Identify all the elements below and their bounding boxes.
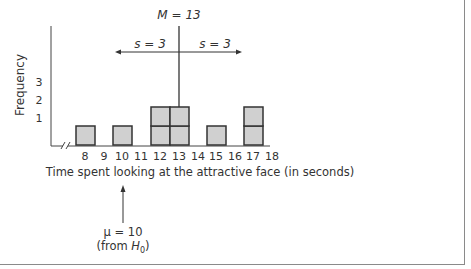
bar-17-unit-2 bbox=[244, 107, 263, 126]
sd-left-label: s = 3 bbox=[134, 37, 166, 51]
mu-source-prefix: (from bbox=[96, 239, 131, 253]
bar-10-unit-1 bbox=[113, 126, 132, 145]
bars bbox=[76, 107, 263, 145]
mu-arrow-head-icon bbox=[121, 185, 126, 192]
bar-17-unit-1 bbox=[244, 126, 263, 145]
x-axis-title: Time spent looking at the attractive fac… bbox=[45, 165, 354, 179]
mu-source-label: (from H0) bbox=[96, 239, 149, 255]
y-tick-2: 2 bbox=[36, 94, 43, 107]
bar-15-unit-1 bbox=[207, 126, 226, 145]
x-tick-17: 17 bbox=[246, 150, 260, 163]
histogram-chart: Frequency 1 2 3 8 9 10 11 12 13 14 15 16… bbox=[0, 0, 471, 269]
mean-label: M = 13 bbox=[157, 8, 200, 22]
bar-12-unit-2 bbox=[151, 107, 170, 126]
y-tick-1: 1 bbox=[36, 112, 43, 125]
x-tick-8: 8 bbox=[82, 150, 89, 163]
x-tick-13: 13 bbox=[172, 150, 186, 163]
sd-arrow-left-head-icon bbox=[115, 50, 121, 55]
mu-source-suffix: ) bbox=[145, 239, 150, 253]
sd-arrow-right-head-icon bbox=[236, 50, 242, 55]
mu-source-h: H bbox=[131, 239, 140, 253]
mu-label: μ = 10 bbox=[104, 225, 143, 239]
x-tick-9: 9 bbox=[101, 150, 108, 163]
y-axis-title: Frequency bbox=[13, 54, 27, 116]
bar-13-unit-2 bbox=[170, 107, 189, 126]
y-tick-3: 3 bbox=[36, 76, 43, 89]
bar-13-unit-1 bbox=[170, 126, 189, 145]
x-tick-10: 10 bbox=[115, 150, 129, 163]
x-tick-14: 14 bbox=[191, 150, 205, 163]
bar-8-unit-1 bbox=[76, 126, 95, 145]
sd-right-label: s = 3 bbox=[199, 37, 231, 51]
mean-label-text: M = 13 bbox=[157, 8, 200, 22]
x-tick-16: 16 bbox=[228, 150, 242, 163]
x-tick-11: 11 bbox=[134, 150, 148, 163]
x-tick-12: 12 bbox=[153, 150, 167, 163]
x-tick-18: 18 bbox=[265, 150, 279, 163]
bar-12-unit-1 bbox=[151, 126, 170, 145]
x-tick-15: 15 bbox=[209, 150, 223, 163]
